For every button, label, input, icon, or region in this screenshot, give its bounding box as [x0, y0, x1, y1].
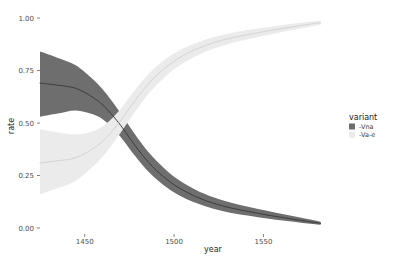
x-tick-label: 1550: [255, 238, 273, 246]
y-tick-label: 0.75: [18, 67, 34, 75]
legend-items: -Vna-Va-e: [349, 123, 375, 139]
chart-root: 0.000.250.500.751.00 145015001550 year r…: [0, 0, 394, 274]
x-tick-label: 1500: [165, 238, 183, 246]
y-tick-label: 0.25: [18, 172, 34, 180]
y-tick-label: 0.00: [18, 225, 34, 233]
legend-title: variant: [349, 113, 377, 122]
legend-label-Vna: -Vna: [359, 123, 374, 131]
legend-label-Vae: -Va-e: [359, 131, 375, 139]
y-axis: 0.000.250.500.751.00: [18, 15, 40, 233]
y-tick-label: 1.00: [18, 15, 34, 23]
legend: variant -Vna-Va-e: [349, 113, 377, 139]
legend-swatch-Vae[interactable]: [349, 132, 355, 138]
legend-swatch-Vna[interactable]: [349, 124, 355, 130]
y-tick-label: 0.50: [18, 120, 34, 128]
chart-canvas: 0.000.250.500.751.00 145015001550 year r…: [0, 0, 394, 274]
x-axis-title: year: [204, 245, 223, 254]
plot-background: [40, 12, 326, 234]
y-axis-title: rate: [7, 118, 16, 134]
x-axis: 145015001550: [76, 234, 273, 246]
x-tick-label: 1450: [76, 238, 94, 246]
